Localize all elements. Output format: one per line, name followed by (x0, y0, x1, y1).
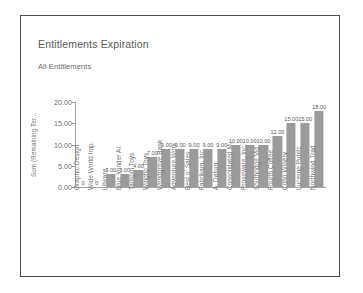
bar-value-label: 12.00 (270, 129, 284, 135)
x-axis-tick-label: Coho Winery (281, 152, 288, 190)
x-axis-tick[interactable]: Woodgrove Bank (159, 190, 173, 274)
bar-value-label: 9.00 (202, 142, 213, 148)
x-axis-tick-label: Blue Yonder Ai. (114, 145, 121, 190)
x-axis-tick-label: Consolidated M. (225, 142, 232, 190)
y-axis-tick-labels: 0.005.0010.0015.0020.00 (41, 98, 75, 190)
x-axis-tick-label: Wide World Imp. (86, 141, 93, 190)
x-axis-tick[interactable]: Lucerne Public (298, 190, 312, 274)
x-axis-tick-labels: Graphic DesignWide World Imp.LitwareBlue… (76, 190, 326, 274)
y-axis-tick-label: 0.00 (58, 183, 72, 192)
x-axis-tick[interactable]: Southridge Vid (257, 190, 271, 274)
bar-value-label: 0 (81, 180, 84, 186)
x-axis-tick[interactable]: Northwind Trad (312, 190, 326, 274)
x-axis-tick-label: Fourth Coffee (267, 150, 274, 190)
x-axis-tick[interactable]: Adventure Work (173, 190, 187, 274)
x-axis-tick[interactable]: Tailspin Toys (132, 190, 146, 274)
x-axis-tick-label: Southridge Vid (253, 147, 260, 190)
x-axis-tick-label: Woodgrove Bank (156, 140, 163, 190)
x-axis-tick-label: Adventure Work (170, 143, 177, 190)
x-axis-tick[interactable]: Litware (104, 190, 118, 274)
y-axis-tick-label: 15.00 (54, 119, 72, 128)
y-axis-tick-label: 5.00 (58, 161, 72, 170)
x-axis-tick-label: Lucerne Public (295, 146, 302, 190)
bar-value-label: 15.00 (298, 116, 312, 122)
x-axis-tick[interactable]: Wingtip Toys (145, 190, 159, 274)
x-axis-tick-label: Proseware, Inc. (239, 144, 246, 190)
x-axis-tick-label: A. Datum (211, 163, 218, 190)
bar-value-label: 18.00 (312, 104, 326, 110)
x-axis-tick-label: Graphic Design (72, 145, 79, 190)
bar-value-label: 10.00 (256, 138, 270, 144)
x-axis-tick-label: Wingtip Toys (142, 153, 149, 190)
x-axis-tick[interactable]: Graphic Design (76, 190, 90, 274)
x-axis-tick-label: Fabrikam, Inc. (197, 148, 204, 190)
x-axis-tick[interactable]: Coho Winery (284, 190, 298, 274)
bar-value-label: 10.00 (243, 138, 257, 144)
x-axis-tick[interactable]: Consolidated M. (229, 190, 243, 274)
x-axis-tick-label: Best o' Sales (184, 152, 191, 190)
bar-value-label: 15.00 (284, 116, 298, 122)
y-axis-tick-label: 10.00 (54, 140, 72, 149)
x-axis-tick-label: Tailspin Toys (128, 153, 135, 190)
x-axis-tick[interactable]: Fabrikam, Inc. (201, 190, 215, 274)
x-axis-tick[interactable]: Best o' Sales (187, 190, 201, 274)
x-axis-tick[interactable]: Blue Yonder Ai. (118, 190, 132, 274)
x-axis-tick[interactable]: Fourth Coffee (270, 190, 284, 274)
chart-card: Entitlements Expiration All Entitlements… (20, 15, 340, 277)
x-axis-tick-label: Northwind Trad (309, 145, 316, 190)
x-axis-tick[interactable]: Proseware, Inc. (243, 190, 257, 274)
x-axis-tick[interactable]: A. Datum (215, 190, 229, 274)
x-axis-tick-label: Litware (100, 169, 107, 190)
bar-value-label: 0 (95, 180, 98, 186)
chart-plot-area: Sum (Remaining Ter... 0.005.0010.0015.00… (21, 16, 341, 278)
x-axis-tick[interactable]: Wide World Imp. (90, 190, 104, 274)
bar-value-label: 9.00 (189, 142, 200, 148)
y-axis-tick-label: 20.00 (54, 98, 72, 107)
bar[interactable] (314, 111, 323, 188)
